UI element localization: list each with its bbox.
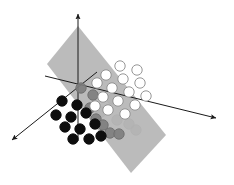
data-point-negative [68, 134, 78, 144]
data-point-negative [57, 96, 67, 106]
data-point-positive [113, 96, 123, 106]
data-point-positive [120, 109, 130, 119]
data-point-negative [72, 100, 82, 110]
data-point-boundary [88, 90, 98, 100]
data-point-positive [118, 74, 128, 84]
data-point-positive [107, 83, 117, 93]
data-point-positive [90, 101, 100, 111]
data-point-positive [124, 87, 134, 97]
data-point-positive [115, 61, 125, 71]
data-point-positive [101, 70, 111, 80]
figure-canvas [0, 0, 234, 185]
data-point-negative [96, 131, 106, 141]
data-point-positive [92, 78, 102, 88]
data-point-negative [66, 112, 76, 122]
data-point-positive [141, 91, 151, 101]
data-point-boundary [76, 83, 86, 93]
data-point-positive [98, 92, 108, 102]
data-point-negative [81, 108, 91, 118]
data-point-negative [51, 110, 61, 120]
data-point-positive [103, 105, 113, 115]
data-point-negative [84, 134, 94, 144]
data-point-negative [75, 124, 85, 134]
data-point-positive [135, 78, 145, 88]
data-point-boundary [114, 129, 124, 139]
data-point-positive [132, 65, 142, 75]
data-point-negative [60, 122, 70, 132]
diagram-svg [0, 0, 234, 185]
data-point-positive [130, 100, 140, 110]
data-point-negative [90, 119, 100, 129]
